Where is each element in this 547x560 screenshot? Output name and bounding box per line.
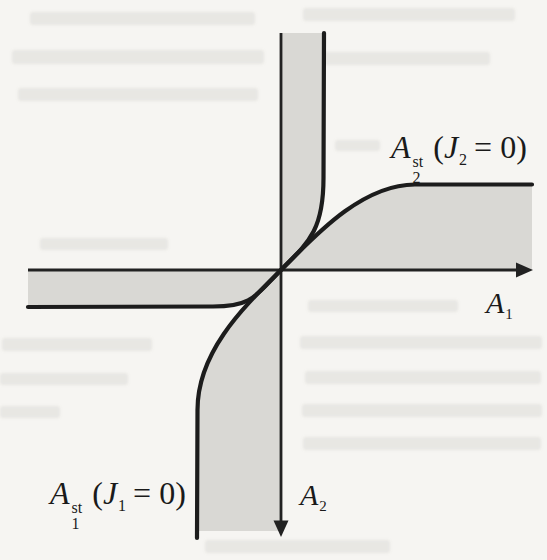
iso2-superscript: st [413,154,424,170]
phase-plane-figure [0,0,547,560]
iso2-flux-variable: J [444,129,458,165]
iso1-condition: (J1= 0) [92,475,186,511]
iso1-subscript: 1 [72,516,83,532]
iso1-superscript: st [72,500,83,516]
open-paren: ( [433,129,444,165]
x-axis-variable: A [486,286,504,319]
x-axis-subscript: 1 [505,306,513,322]
nullcline-a2st-label: Ast2(J2= 0) [391,131,527,186]
y-axis-subscript: 2 [319,498,327,514]
iso1-flux-variable: J [103,475,117,511]
iso1-flux-subscript: 1 [118,497,126,514]
y-axis-label: A2 [300,480,327,514]
iso2-flux-subscript: 2 [459,151,467,168]
iso1-equals-zero: = 0) [133,475,186,511]
x-axis-label: A1 [486,288,513,322]
iso1-sup-sub: st1 [72,500,83,532]
iso2-variable: A [391,129,411,165]
iso2-subscript: 2 [413,170,424,186]
nullcline-a1st-label: Ast1(J1= 0) [50,477,186,532]
open-paren: ( [92,475,103,511]
iso1-variable: A [50,475,70,511]
iso2-condition: (J2= 0) [433,129,527,165]
y-axis-variable: A [300,478,318,511]
iso2-sup-sub: st2 [413,154,424,186]
scanned-page: Ast2(J2= 0) Ast1(J1= 0) A1 A2 [0,0,547,560]
iso2-equals-zero: = 0) [474,129,527,165]
shaded-band-lower [197,270,281,531]
